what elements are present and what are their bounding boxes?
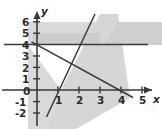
x-tick-label-1: 1: [55, 95, 62, 106]
y-tick-label-minus-2: -2: [15, 108, 26, 119]
y-axis-label: y: [41, 6, 48, 17]
y-tick-label-2: 2: [22, 63, 29, 74]
y-axis-arrowhead: [33, 11, 40, 19]
shaded-region-overlap-upper: [33, 33, 100, 45]
coordinate-plane-figure: 6 5 4 3 2 1 0 -1 -2 1 2 3 4 5 y x: [0, 0, 162, 129]
y-tick-label-6: 6: [22, 17, 29, 28]
x-tick-label-5: 5: [139, 95, 146, 106]
y-tick-label-5: 5: [22, 28, 29, 39]
y-tick-label-4: 4: [22, 40, 29, 51]
x-axis-label: x: [153, 94, 160, 105]
y-tick-label-1: 1: [22, 74, 29, 85]
y-tick-label-3: 3: [22, 51, 29, 62]
y-tick-label-minus-1: -1: [15, 97, 26, 108]
x-axis-arrowhead: [144, 86, 152, 93]
x-tick-label-2: 2: [76, 95, 83, 106]
origin-label-0: 0: [23, 86, 30, 97]
x-tick-label-4: 4: [118, 95, 125, 106]
x-tick-label-3: 3: [97, 95, 104, 106]
